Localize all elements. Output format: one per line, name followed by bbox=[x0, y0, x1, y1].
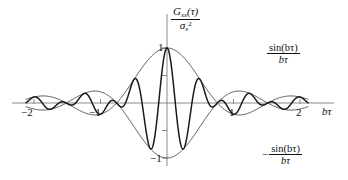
y-axis-label-numerator: Gxx(τ) bbox=[171, 6, 200, 20]
x-axis-label: bτ bbox=[322, 106, 331, 117]
y-tick-label-minus-1: −1 bbox=[150, 153, 162, 164]
lower-envelope-sign: − bbox=[262, 149, 269, 160]
y-axis-label: Gxx(τ) σx2 bbox=[171, 6, 200, 32]
y-axis-label-denominator: σx2 bbox=[171, 20, 200, 32]
y-axis-label-fraction: Gxx(τ) σx2 bbox=[171, 6, 200, 32]
x-tick-label-plus-1: 1 bbox=[229, 107, 235, 118]
x-tick-label-minus-1: −1 bbox=[89, 107, 101, 118]
x-tick-label-minus-2: −2 bbox=[21, 107, 33, 118]
upper-envelope-fraction: sin(bτ) bτ bbox=[267, 42, 300, 66]
lower-envelope-label: − sin(bτ) bτ bbox=[262, 143, 302, 167]
x-tick-label-plus-2: 2 bbox=[296, 107, 302, 118]
lower-envelope-numerator: sin(bτ) bbox=[269, 143, 302, 155]
upper-envelope-denominator: bτ bbox=[267, 54, 300, 65]
y-tick-label-1: 1 bbox=[158, 42, 164, 53]
upper-envelope-label: sin(bτ) bτ bbox=[267, 42, 300, 66]
upper-envelope-numerator: sin(bτ) bbox=[267, 42, 300, 54]
figure-container: Gxx(τ) σx2 sin(bτ) bτ − sin(bτ) bτ bτ 1 … bbox=[0, 0, 348, 180]
lower-envelope-fraction: sin(bτ) bτ bbox=[269, 143, 302, 167]
lower-envelope-denominator: bτ bbox=[269, 155, 302, 166]
